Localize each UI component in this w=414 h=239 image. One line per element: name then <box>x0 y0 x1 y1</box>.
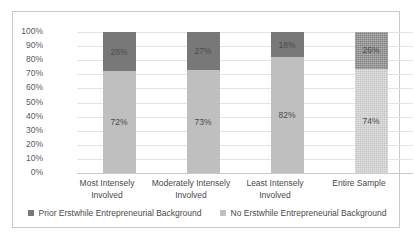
bar-value-label: 74% <box>362 116 379 126</box>
bar-segment-prior-background[interactable]: 27% <box>187 32 220 70</box>
y-axis-tick-label: 50% <box>0 98 43 107</box>
axis-baseline <box>77 173 413 174</box>
legend-swatch-icon <box>28 210 34 216</box>
y-axis-tick-label: 10% <box>0 154 43 163</box>
y-axis-tick-label: 20% <box>0 140 43 149</box>
bar-group[interactable]: 82%18% <box>271 32 304 173</box>
bar-value-label: 18% <box>278 40 295 50</box>
y-axis-tick-label: 30% <box>0 126 43 135</box>
x-axis-label-line: Involved <box>223 190 327 202</box>
chart-legend: Prior Erstwhile Entrepreneurial Backgrou… <box>13 208 401 218</box>
y-axis-tick-label: 0% <box>0 168 43 177</box>
bar-value-label: 73% <box>194 117 211 127</box>
bar-segment-no-background[interactable]: 74% <box>355 69 388 173</box>
x-axis-label: Entire Sample <box>307 178 411 190</box>
bar-value-label: 82% <box>278 110 295 120</box>
x-axis-label-line: Entire Sample <box>307 178 411 190</box>
y-axis-tick-label: 60% <box>0 83 43 92</box>
bar-segment-no-background[interactable]: 82% <box>271 57 304 173</box>
y-axis-tick-label: 100% <box>0 27 43 36</box>
bar-value-label: 26% <box>362 45 379 55</box>
bar-value-label: 27% <box>194 46 211 56</box>
bar-segment-no-background[interactable]: 73% <box>187 70 220 173</box>
bar-group[interactable]: 73%27% <box>187 32 220 173</box>
bar-segment-no-background[interactable]: 72% <box>103 71 136 173</box>
bar-segment-prior-background[interactable]: 18% <box>271 32 304 57</box>
bar-segment-prior-background[interactable]: 26% <box>355 32 388 69</box>
y-axis-tick-label: 80% <box>0 55 43 64</box>
legend-item[interactable]: Prior Erstwhile Entrepreneurial Backgrou… <box>28 208 202 218</box>
bar-group[interactable]: 72%28% <box>103 32 136 173</box>
legend-label: Prior Erstwhile Entrepreneurial Backgrou… <box>39 208 202 218</box>
y-axis-tick-label: 90% <box>0 41 43 50</box>
bar-group[interactable]: 74%26% <box>355 32 388 173</box>
bar-value-label: 72% <box>110 117 127 127</box>
legend-item[interactable]: No Erstwhile Entrepreneurial Background <box>220 208 387 218</box>
legend-swatch-icon <box>220 210 226 216</box>
bar-segment-prior-background[interactable]: 28% <box>103 32 136 71</box>
bar-value-label: 28% <box>110 47 127 57</box>
y-axis-tick-label: 70% <box>0 69 43 78</box>
chart-frame: 100%90%80%70%60%50%40%30%20%10%0% 72%28%… <box>12 11 400 228</box>
plot-area: 72%28%73%27%82%18%74%26% <box>77 32 413 173</box>
y-axis-tick-label: 40% <box>0 112 43 121</box>
legend-label: No Erstwhile Entrepreneurial Background <box>231 208 387 218</box>
